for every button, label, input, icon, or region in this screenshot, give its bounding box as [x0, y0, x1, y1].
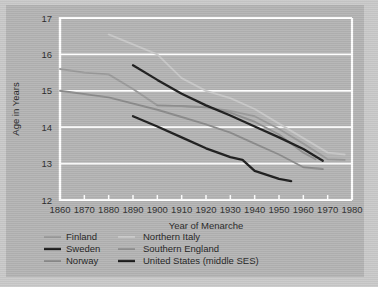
x-tick-label-1960: 1960: [293, 204, 314, 215]
x-tick-label-1910: 1910: [171, 204, 192, 215]
y-tick-label-15: 15: [41, 85, 52, 96]
x-tick-labels: 1860187018801890190019101920193019401950…: [49, 204, 362, 215]
x-tick-label-1950: 1950: [268, 204, 289, 215]
legend-item-southern-england: Southern England: [118, 243, 219, 254]
legend-item-sweden: Sweden: [44, 243, 100, 254]
legend-item-northern-italy: Northern Italy: [118, 231, 200, 242]
y-tick-labels: 121314151617: [41, 13, 52, 206]
legend-item-finland: Finland: [44, 231, 97, 242]
plot-frame: [60, 17, 352, 201]
x-axis-title: Year of Menarche: [169, 220, 244, 231]
legend-item-norway: Norway: [44, 255, 98, 266]
x-tick-label-1870: 1870: [74, 204, 95, 215]
y-tick-label-17: 17: [41, 13, 52, 24]
legend-label: Sweden: [66, 243, 100, 254]
legend-label: Southern England: [143, 243, 219, 254]
chart-legend: FinlandSwedenNorwayNorthern ItalySouther…: [44, 231, 259, 266]
x-tick-label-1860: 1860: [49, 204, 70, 215]
x-tick-label-1980: 1980: [341, 204, 362, 215]
legend-label: Finland: [66, 231, 97, 242]
data-series-group: [60, 34, 345, 181]
series-line-norway: [60, 91, 323, 169]
y-tick-label-13: 13: [41, 158, 52, 169]
legend-label: United States (middle SES): [143, 255, 259, 266]
legend-item-united-states-middle-ses: United States (middle SES): [118, 255, 259, 266]
y-tick-label-14: 14: [41, 122, 52, 133]
legend-label: Norway: [66, 255, 98, 266]
figure-panel: 121314151617 186018701880189019001910192…: [0, 0, 378, 287]
x-tick-label-1970: 1970: [317, 204, 338, 215]
x-tick-label-1930: 1930: [220, 204, 241, 215]
series-line-northern-italy: [109, 34, 345, 154]
x-tick-label-1900: 1900: [147, 204, 168, 215]
x-tick-label-1920: 1920: [195, 204, 216, 215]
y-tick-label-16: 16: [41, 49, 52, 60]
chart-container: 121314151617 186018701880189019001910192…: [0, 0, 378, 287]
legend-label: Northern Italy: [143, 231, 200, 242]
x-tick-label-1880: 1880: [98, 204, 119, 215]
menarche-age-line-chart: 121314151617 186018701880189019001910192…: [0, 0, 378, 287]
gridlines: [60, 18, 352, 200]
x-tick-label-1890: 1890: [122, 204, 143, 215]
y-axis-title: Age in Years: [10, 82, 21, 136]
x-tick-label-1940: 1940: [244, 204, 265, 215]
